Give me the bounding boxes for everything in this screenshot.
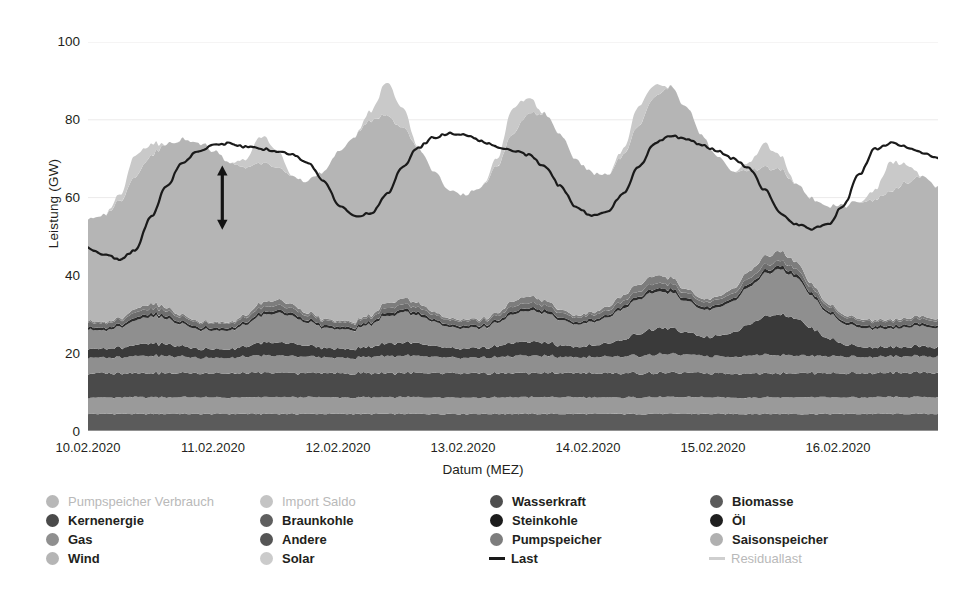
x-tick-0: 10.02.2020 <box>55 440 120 455</box>
legend-column-4: BiomasseÖlSaisonspeicherResiduallast <box>710 492 828 568</box>
legend-label-saisonspeicher: Saisonspeicher <box>732 533 828 546</box>
legend-item-wind[interactable]: Wind <box>46 549 214 568</box>
y-tick-40: 40 <box>36 269 80 283</box>
legend-item-andere[interactable]: Andere <box>260 530 356 549</box>
y-tick-100: 100 <box>36 35 80 49</box>
legend-column-1: Pumpspeicher VerbrauchKernenergieGasWind <box>46 492 214 568</box>
legend-line-swatch-last <box>489 557 505 560</box>
legend-dot-swatch-steinkohle <box>490 514 503 527</box>
legend-label-steinkohle: Steinkohle <box>512 514 578 527</box>
legend-dot-swatch-import-saldo <box>260 495 273 508</box>
legend-label-biomasse: Biomasse <box>732 495 793 508</box>
legend-column-3: WasserkraftSteinkohlePumpspeicherLast <box>490 492 602 568</box>
legend-label-residuallast: Residuallast <box>731 552 802 565</box>
legend-item-pumpspeicher-verbrauch[interactable]: Pumpspeicher Verbrauch <box>46 492 214 511</box>
legend-item-wasserkraft[interactable]: Wasserkraft <box>490 492 602 511</box>
legend-dot-swatch-saisonspeicher <box>710 533 723 546</box>
legend-dot-swatch-pumpspeicher-verbrauch <box>46 495 59 508</box>
legend-label-l: Öl <box>732 514 746 527</box>
legend-dot-swatch-pumpspeicher <box>490 533 503 546</box>
x-tick-5: 15.02.2020 <box>680 440 745 455</box>
legend-item-l[interactable]: Öl <box>710 511 828 530</box>
y-tick-60: 60 <box>36 191 80 205</box>
legend-label-solar: Solar <box>282 552 315 565</box>
legend-dot-swatch-gas <box>46 533 59 546</box>
legend-label-braunkohle: Braunkohle <box>282 514 354 527</box>
y-tick-20: 20 <box>36 347 80 361</box>
legend-dot-swatch-solar <box>260 552 273 565</box>
legend-dot-swatch-braunkohle <box>260 514 273 527</box>
x-tick-4: 14.02.2020 <box>555 440 620 455</box>
legend-label-andere: Andere <box>282 533 327 546</box>
stacked-area-chart <box>88 42 938 431</box>
legend-item-pumpspeicher[interactable]: Pumpspeicher <box>490 530 602 549</box>
y-tick-0: 0 <box>36 425 80 439</box>
legend-label-wasserkraft: Wasserkraft <box>512 495 586 508</box>
legend-dot-swatch-kernenergie <box>46 514 59 527</box>
legend-dot-swatch-biomasse <box>710 495 723 508</box>
legend-item-residuallast[interactable]: Residuallast <box>710 549 828 568</box>
legend-label-pumpspeicher: Pumpspeicher <box>512 533 602 546</box>
x-tick-1: 11.02.2020 <box>181 440 245 455</box>
legend-item-saisonspeicher[interactable]: Saisonspeicher <box>710 530 828 549</box>
legend-dot-swatch-andere <box>260 533 273 546</box>
legend-dot-swatch-l <box>710 514 723 527</box>
area-series-biomasse <box>88 413 938 431</box>
x-tick-6: 16.02.2020 <box>805 440 870 455</box>
legend-item-kernenergie[interactable]: Kernenergie <box>46 511 214 530</box>
legend-item-solar[interactable]: Solar <box>260 549 356 568</box>
x-tick-2: 12.02.2020 <box>305 440 370 455</box>
legend-column-2: Import SaldoBraunkohleAndereSolar <box>260 492 356 568</box>
legend-label-gas: Gas <box>68 533 93 546</box>
chart-page: Leistung (GW) 100 80 60 40 20 0 10.02.20… <box>0 0 966 594</box>
x-axis-title: Datum (MEZ) <box>0 462 966 477</box>
legend-item-steinkohle[interactable]: Steinkohle <box>490 511 602 530</box>
legend-item-biomasse[interactable]: Biomasse <box>710 492 828 511</box>
legend-line-swatch-residuallast <box>709 557 725 560</box>
legend-item-braunkohle[interactable]: Braunkohle <box>260 511 356 530</box>
legend-label-kernenergie: Kernenergie <box>68 514 144 527</box>
legend-dot-swatch-wind <box>46 552 59 565</box>
legend-label-pumpspeicher-verbrauch: Pumpspeicher Verbrauch <box>68 495 214 508</box>
legend-item-import-saldo[interactable]: Import Saldo <box>260 492 356 511</box>
legend-item-gas[interactable]: Gas <box>46 530 214 549</box>
legend-label-last: Last <box>511 552 538 565</box>
area-series-kernenergie <box>88 371 938 398</box>
y-tick-80: 80 <box>36 113 80 127</box>
legend-item-last[interactable]: Last <box>490 549 602 568</box>
area-series-wasserkraft <box>88 396 938 414</box>
chart-legend: Pumpspeicher VerbrauchKernenergieGasWind… <box>40 492 966 576</box>
plot-area <box>88 42 938 431</box>
legend-label-wind: Wind <box>68 552 100 565</box>
legend-dot-swatch-wasserkraft <box>490 495 503 508</box>
legend-label-import-saldo: Import Saldo <box>282 495 356 508</box>
x-tick-3: 13.02.2020 <box>430 440 495 455</box>
